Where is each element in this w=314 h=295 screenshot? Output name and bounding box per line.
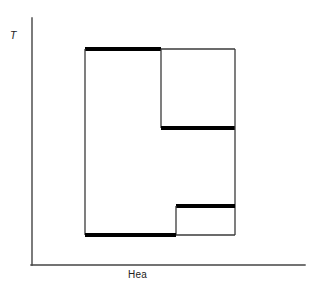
y-axis-label: T xyxy=(10,29,17,41)
axis-group xyxy=(31,18,305,265)
step-polygon-outline xyxy=(85,49,235,235)
x-axis-label: Hea xyxy=(0,269,275,280)
plot-canvas xyxy=(0,0,314,295)
t-vs-heat-diagram: T Hea xyxy=(0,0,314,295)
